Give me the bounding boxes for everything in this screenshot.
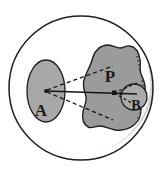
label-a: A bbox=[35, 101, 48, 120]
label-p: P bbox=[105, 67, 115, 86]
figure-container: A P B bbox=[0, 0, 164, 177]
convergence-point-p bbox=[112, 91, 117, 96]
geometric-diagram: A P B bbox=[0, 0, 164, 177]
apex-point-a bbox=[44, 89, 48, 93]
midpoint-dot bbox=[119, 92, 122, 95]
label-b: B bbox=[131, 98, 140, 113]
